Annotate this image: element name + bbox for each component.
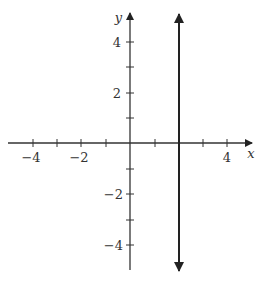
y-tick-label-4: 4 bbox=[113, 35, 121, 50]
y-axis-label: y bbox=[114, 10, 123, 25]
coordinate-plane: −4 −2 4 x 4 2 −2 −4 y bbox=[0, 0, 259, 285]
x-axis-label: x bbox=[247, 146, 255, 161]
y-axis: 4 2 −2 −4 y bbox=[104, 10, 134, 270]
x-tick-label-neg4: −4 bbox=[21, 150, 40, 165]
x-tick-label-4: 4 bbox=[223, 150, 231, 165]
y-tick-label-neg4: −4 bbox=[104, 238, 123, 253]
y-tick-label-neg2: −2 bbox=[104, 187, 123, 202]
x-tick-label-neg2: −2 bbox=[69, 150, 88, 165]
x-axis: −4 −2 4 x bbox=[8, 139, 255, 165]
y-tick-label-2: 2 bbox=[113, 86, 121, 101]
